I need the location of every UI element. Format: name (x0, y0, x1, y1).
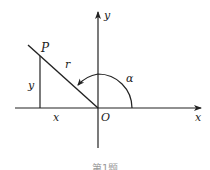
angle-arc (78, 74, 132, 108)
hypotenuse-r-label: r (65, 58, 71, 71)
origin-label: O (101, 111, 110, 124)
angle-alpha-label: α (126, 72, 134, 85)
figure-caption: 第1题 (92, 162, 118, 170)
trig-diagram: y x O P r y x α 第1题 (0, 0, 210, 170)
point-p-label: P (40, 41, 50, 55)
y-axis-label: y (103, 9, 111, 22)
vertical-leg-y-label: y (27, 79, 35, 92)
terminal-side-line (28, 45, 98, 108)
horizontal-leg-x-label: x (53, 111, 60, 124)
x-axis-label: x (195, 111, 202, 124)
